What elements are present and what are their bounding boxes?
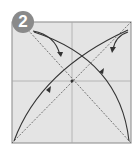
center-point: [71, 80, 74, 83]
step-number-badge: 2: [12, 11, 34, 33]
